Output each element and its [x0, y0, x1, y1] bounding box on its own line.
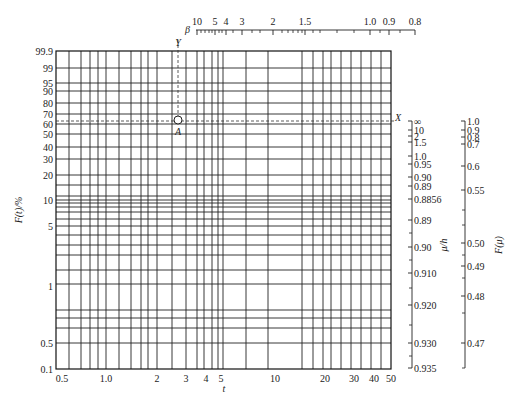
- weibull-probability-paper: 0.51.023451020304050 99.9999590807060504…: [0, 0, 522, 417]
- mu-h-tick-label: 0.920: [414, 300, 437, 311]
- y-tick-label: 1: [48, 281, 53, 292]
- x-tick-label: 3: [184, 373, 189, 384]
- f-mu-tick-label: 0.49: [467, 261, 485, 272]
- beta-label: β: [184, 24, 190, 35]
- x-tick-label: 1.0: [100, 373, 113, 384]
- mu-h-tick-label: 0.95: [414, 159, 432, 170]
- y-tick-label: 10: [43, 195, 53, 206]
- point-a-marker: [174, 116, 182, 124]
- f-mu-tick-label: 0.6: [467, 161, 480, 172]
- beta-tick-label: 1.5: [299, 16, 312, 27]
- y-tick-label: 5: [48, 221, 53, 232]
- x-axis-tick-labels: 0.51.023451020304050: [56, 373, 396, 384]
- f-mu-label: F(μ): [493, 235, 505, 254]
- y-tick-label: 99: [43, 63, 53, 74]
- x-tick-label: 2: [155, 373, 160, 384]
- x-tick-label: 0.5: [56, 373, 69, 384]
- y-tick-label: 20: [43, 170, 53, 181]
- y-tick-label: 90: [43, 86, 53, 97]
- y-tick-label: 80: [43, 98, 53, 109]
- mu-h-tick-label: 0.89: [414, 181, 432, 192]
- y-tick-label: 0.1: [41, 364, 54, 375]
- x-tick-label: 4: [204, 373, 209, 384]
- y-axis-tick-labels: 99.99995908070605040302010510.50.1: [36, 46, 54, 375]
- f-mu-scale: 1.00.90.80.70.60.550.500.490.480.47F(μ): [461, 116, 505, 369]
- y-tick-label: 30: [43, 154, 53, 165]
- beta-tick-label: 0.9: [383, 16, 396, 27]
- beta-tick-label: 1.0: [364, 16, 377, 27]
- y-tick-label: 0.5: [41, 338, 54, 349]
- mu-h-tick-label: 1.5: [414, 137, 427, 148]
- x-tick-label: 30: [349, 373, 359, 384]
- mu-h-tick-label: 0.8856: [414, 194, 442, 205]
- x-tick-label: 40: [369, 373, 379, 384]
- beta-tick-label: 10: [192, 16, 202, 27]
- y-tick-label: 40: [43, 142, 53, 153]
- mu-h-tick-label: 0.930: [414, 338, 437, 349]
- y-tick-label: 99.9: [36, 46, 54, 57]
- f-mu-tick-label: 0.50: [467, 238, 485, 249]
- mu-h-tick-label: 0.89: [414, 215, 432, 226]
- f-mu-tick-label: 0.47: [467, 338, 485, 349]
- x-axis-label: t: [223, 383, 226, 394]
- beta-tick-label: 3: [240, 16, 245, 27]
- beta-scale: 1054321.51.00.90.8β: [184, 16, 421, 35]
- annotation-x: X: [394, 112, 402, 123]
- y-tick-label: 50: [43, 129, 53, 140]
- beta-tick-label: 4: [224, 16, 229, 27]
- beta-tick-label: 5: [213, 16, 218, 27]
- mu-h-tick-label: 0.935: [414, 363, 437, 374]
- x-tick-label: 10: [270, 373, 280, 384]
- beta-tick-label: 0.8: [409, 16, 422, 27]
- f-mu-tick-label: 0.7: [467, 139, 480, 150]
- x-tick-label: 50: [386, 373, 396, 384]
- mu-h-label: μ/h: [438, 239, 449, 253]
- mu-h-tick-label: 0.90: [414, 242, 432, 253]
- beta-tick-label: 2: [271, 16, 276, 27]
- annotation-y: Y: [175, 37, 182, 48]
- f-mu-tick-label: 0.55: [467, 185, 485, 196]
- annotations: YXA: [56, 37, 402, 137]
- vertical-grid-lines: [69, 51, 381, 369]
- mu-h-tick-label: 0.910: [414, 268, 437, 279]
- annotation-a: A: [174, 126, 182, 137]
- mu-h-scale: ∞1021.51.00.950.900.890.88560.890.900.91…: [408, 116, 449, 374]
- y-axis-label: F(t)/%: [13, 197, 25, 225]
- f-mu-tick-label: 0.48: [467, 291, 485, 302]
- x-tick-label: 20: [320, 373, 330, 384]
